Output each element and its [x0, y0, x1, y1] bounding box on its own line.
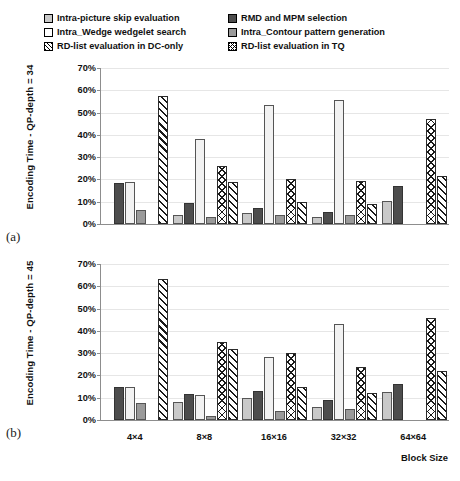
y-tick-mark: [97, 420, 101, 421]
bar: [184, 203, 194, 224]
y-tick-label: 60%: [78, 85, 96, 95]
legend-item-rmd-and-mpm-selection: RMD and MPM selection: [228, 14, 448, 23]
bar: [217, 166, 227, 224]
bar: [426, 318, 436, 421]
bar: [114, 183, 124, 224]
bar-group: [171, 264, 241, 420]
bar: [367, 393, 377, 420]
bar-group: [240, 264, 310, 420]
y-tick-label: 0%: [83, 219, 96, 229]
x-tick-label: 4×4: [100, 432, 170, 442]
y-axis-label-b: Encoding Time - QP-depth = 45: [24, 248, 38, 418]
bar: [286, 179, 296, 224]
y-tick-label: 60%: [78, 281, 96, 291]
bar: [125, 387, 135, 420]
y-tick-label: 30%: [78, 152, 96, 162]
bar: [382, 392, 392, 420]
legend-label: RD-list evaluation in TQ: [241, 42, 345, 51]
bar: [323, 400, 333, 420]
legend-label: RD-list evaluation in DC-only: [57, 42, 183, 51]
legend-item-rd-list-evaluation-in-dc-only: RD-list evaluation in DC-only: [44, 42, 214, 51]
bar: [426, 119, 436, 224]
bar: [393, 384, 403, 420]
y-tick-label: 40%: [78, 130, 96, 140]
bar: [382, 201, 392, 224]
diagonal-hatch-square-icon: [44, 42, 53, 51]
x-axis-tick-labels: 4×48×816×1632×3264×64: [100, 432, 448, 442]
bar: [173, 215, 183, 224]
bar: [437, 371, 447, 420]
chart-panel-b: Encoding Time - QP-depth = 45 (b) 0%10%2…: [0, 258, 460, 448]
y-tick-label: 70%: [78, 63, 96, 73]
bar-group: [240, 68, 310, 224]
bar-group: [171, 68, 241, 224]
bar: [158, 96, 168, 224]
y-tick-label: 50%: [78, 108, 96, 118]
y-tick-label: 50%: [78, 304, 96, 314]
y-tick-label: 10%: [78, 197, 96, 207]
white-square-icon: [44, 28, 53, 37]
bar-group: [101, 68, 171, 224]
y-tick-label: 10%: [78, 393, 96, 403]
bar: [437, 176, 447, 224]
bar: [242, 398, 252, 420]
bar: [367, 204, 377, 225]
bar: [195, 395, 205, 420]
legend-item-intra-wedge-wedgelet-search: Intra_Wedge wedgelet search: [44, 28, 214, 37]
plot-area-b: 0%10%20%30%40%50%60%70%: [100, 264, 449, 421]
bar: [264, 357, 274, 421]
y-tick-label: 20%: [78, 370, 96, 380]
y-tick-label: 20%: [78, 174, 96, 184]
legend-label: Intra_Contour pattern generation: [241, 28, 385, 37]
bar: [312, 407, 322, 420]
y-axis-label-a: Encoding Time - QP-depth = 34: [24, 52, 38, 222]
legend-item-intra-picture-skip-evaluation: Intra-picture skip evaluation: [44, 14, 214, 23]
bar: [334, 324, 344, 420]
bar: [275, 411, 285, 420]
bar: [334, 100, 344, 224]
bar: [136, 403, 146, 420]
bar: [206, 217, 216, 224]
bar: [228, 349, 238, 420]
bar: [173, 402, 183, 420]
chart-legend: Intra-picture skip evaluation RMD and MP…: [44, 12, 448, 54]
legend-label: RMD and MPM selection: [241, 14, 347, 23]
bar: [264, 105, 274, 224]
light-gray-square-icon: [44, 14, 53, 23]
chart-panel-a: Encoding Time - QP-depth = 34 (a) 0%10%2…: [0, 62, 460, 252]
bar: [312, 217, 322, 224]
bar: [228, 182, 238, 224]
dark-gray-square-icon: [228, 14, 237, 23]
plot-area-a: 0%10%20%30%40%50%60%70%: [100, 68, 449, 225]
bar: [297, 202, 307, 224]
bar: [242, 213, 252, 224]
bar: [297, 387, 307, 420]
panel-tag-a: (a): [6, 229, 20, 245]
x-tick-label: 32×32: [309, 432, 379, 442]
bar: [253, 391, 263, 420]
x-axis-title: Block Size: [401, 452, 448, 463]
bar: [158, 279, 168, 421]
panel-tag-b: (b): [6, 425, 21, 441]
y-tick-label: 40%: [78, 326, 96, 336]
bar-group: [379, 68, 449, 224]
legend-item-rd-list-evaluation-in-tq: RD-list evaluation in TQ: [228, 42, 448, 51]
bar: [323, 212, 333, 224]
legend-label: Intra-picture skip evaluation: [57, 14, 180, 23]
bar: [393, 186, 403, 224]
bar: [136, 210, 146, 224]
x-tick-label: 64×64: [378, 432, 448, 442]
bar-group: [379, 264, 449, 420]
bar: [345, 215, 355, 224]
bar-group: [310, 68, 380, 224]
bar: [114, 387, 124, 420]
legend-item-intra-contour-pattern-generation: Intra_Contour pattern generation: [228, 28, 448, 37]
y-tick-mark: [97, 224, 101, 225]
bar: [286, 353, 296, 420]
y-tick-label: 30%: [78, 348, 96, 358]
bar: [356, 367, 366, 420]
x-tick-label: 16×16: [239, 432, 309, 442]
mid-gray-square-icon: [228, 28, 237, 37]
bar: [275, 215, 285, 224]
bar: [195, 139, 205, 224]
